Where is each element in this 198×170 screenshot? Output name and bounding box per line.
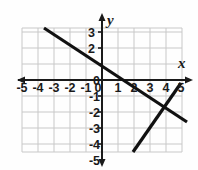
x-axis-label: x bbox=[177, 55, 186, 71]
x-tick-label: -2 bbox=[64, 81, 75, 95]
y-axis-label: y bbox=[105, 12, 114, 28]
x-tick-label: -5 bbox=[16, 81, 27, 95]
y-tick-label: 3 bbox=[88, 26, 95, 40]
x-tick-label: -4 bbox=[32, 81, 43, 95]
y-tick-label: -3 bbox=[89, 122, 100, 136]
y-axis-arrow-icon bbox=[99, 13, 106, 21]
y-tick-label: -4 bbox=[89, 138, 100, 152]
y-tick-label: -2 bbox=[89, 106, 100, 120]
y-tick-label: 2 bbox=[88, 42, 95, 56]
x-axis-arrow-icon bbox=[185, 77, 193, 84]
y-tick-label-zero: 0 bbox=[93, 74, 100, 88]
ascending-line bbox=[133, 83, 181, 152]
x-tick-labels: -5 -4 -3 -2 -1 0 1 2 3 4 5 bbox=[16, 81, 184, 95]
x-tick-label: 1 bbox=[115, 81, 122, 95]
x-tick-label: 5 bbox=[178, 81, 185, 95]
x-tick-label: 2 bbox=[131, 81, 138, 95]
x-tick-label: 3 bbox=[147, 81, 154, 95]
y-tick-label: -1 bbox=[89, 90, 100, 104]
coordinate-plane-figure: -5 -4 -3 -2 -1 0 1 2 3 4 5 3 2 0 -1 -2 -… bbox=[0, 0, 198, 170]
x-tick-label: 4 bbox=[163, 81, 170, 95]
x-tick-label: -3 bbox=[48, 81, 59, 95]
y-tick-label: -5 bbox=[89, 154, 100, 168]
graph-canvas: -5 -4 -3 -2 -1 0 1 2 3 4 5 3 2 0 -1 -2 -… bbox=[0, 0, 198, 170]
